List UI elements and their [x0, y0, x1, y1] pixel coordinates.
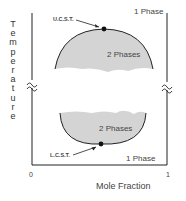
ucst-point	[102, 27, 107, 32]
x-axis-label: Mole Fraction	[96, 181, 151, 191]
x-tick-0: 0	[29, 171, 33, 178]
x-tick-1: 1	[166, 171, 170, 178]
lower-one-phase-label: 1 Phase	[126, 154, 155, 163]
y-axis-label: T e m p e r a t u r e	[9, 20, 17, 121]
phase-diagram	[0, 0, 186, 201]
ucst-arrowhead-icon	[95, 24, 99, 28]
lcst-label: L.C.S.T.	[50, 152, 70, 158]
ylabel-letter: e	[9, 112, 17, 121]
lower-two-phase-label: 2 Phases	[99, 124, 132, 133]
ucst-label: U.C.S.T.	[53, 16, 73, 22]
axis-break-icon-left	[27, 83, 37, 91]
upper-two-phase-label: 2 Phases	[107, 50, 140, 59]
upper-one-phase-label: 1 Phase	[134, 7, 163, 16]
axis-break-icon-right	[162, 85, 172, 93]
lcst-point	[99, 142, 104, 147]
